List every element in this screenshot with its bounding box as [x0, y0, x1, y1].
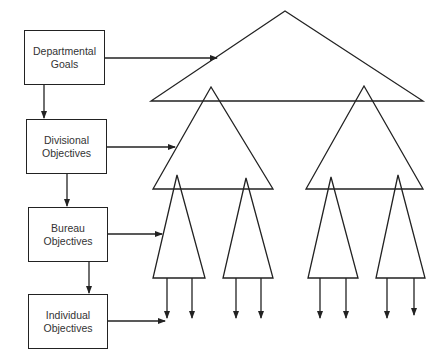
- division-triangle-left: [153, 87, 273, 189]
- goal-hierarchy-diagram: Departmental Goals Divisional Objectives…: [0, 0, 448, 364]
- box-label-line1: Individual: [46, 309, 90, 322]
- box-label-line2: Goals: [51, 58, 78, 71]
- box-label-line1: Departmental: [33, 45, 96, 58]
- box-label-line1: Divisional: [44, 134, 89, 147]
- box-label-line1: Bureau: [51, 222, 85, 235]
- departmental-triangle: [151, 11, 423, 101]
- bureau-objectives-box: Bureau Objectives: [28, 207, 108, 262]
- box-label-line2: Objectives: [43, 235, 92, 248]
- individual-objectives-box: Individual Objectives: [28, 294, 108, 349]
- divisional-objectives-box: Divisional Objectives: [26, 119, 107, 174]
- box-label-line2: Objectives: [42, 147, 91, 160]
- bureau-triangle-3: [308, 177, 358, 278]
- departmental-goals-box: Departmental Goals: [24, 30, 105, 85]
- bureau-triangle-2: [223, 178, 273, 278]
- box-label-line2: Objectives: [43, 322, 92, 335]
- bureau-triangle-4: [376, 175, 425, 278]
- bureau-triangle-1: [153, 175, 205, 278]
